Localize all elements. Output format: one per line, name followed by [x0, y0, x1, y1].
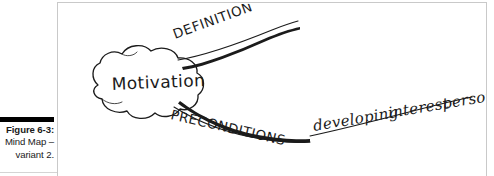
figure-caption: Figure 6-3: Mind Map – variant 2.	[0, 124, 54, 161]
branch-definition-label: DEFINITION	[171, 3, 255, 42]
caption-figure-label: Figure 6-3:	[0, 124, 54, 136]
figure-screenshot: Figure 6-3: Mind Map – variant 2. Motiva…	[0, 0, 494, 176]
sub-branch-label-personal: personal	[441, 84, 487, 113]
caption-line-3: variant 2.	[0, 149, 54, 161]
central-node-label: Motivation	[111, 70, 205, 94]
mind-map-diagram: Motivation DEFINITION PRECONDITIONS	[58, 3, 487, 176]
central-node-label-text: Motivation	[111, 70, 205, 94]
branch-preconditions-label: PRECONDITIONS	[169, 106, 287, 148]
caption-rule	[0, 117, 54, 122]
figure-frame: Motivation DEFINITION PRECONDITIONS	[57, 2, 487, 176]
figure-caption-column: Figure 6-3: Mind Map – variant 2.	[0, 0, 64, 176]
caption-line-2: Mind Map –	[0, 136, 54, 148]
caption-divider	[0, 172, 60, 173]
sub-branch-labels: developing interest personal	[310, 84, 487, 136]
